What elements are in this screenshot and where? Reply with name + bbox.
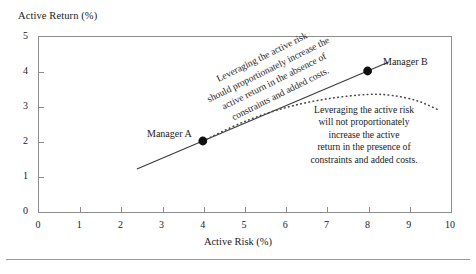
- data-point-label-manager-b: Manager B: [383, 56, 428, 67]
- concave-annotation-line-4: return in the presence of: [288, 141, 440, 153]
- chart-figure: Active Return (%) 012345 012345678910 Le…: [0, 0, 476, 274]
- concave-annotation-line-5: constraints and added costs.: [288, 154, 440, 166]
- data-point-marker: [363, 67, 372, 76]
- concave-annotation-line-2: will not proportionately: [288, 116, 440, 128]
- concave-annotation: Leveraging the active risk will not prop…: [288, 104, 440, 166]
- x-axis-title: Active Risk (%): [0, 236, 476, 247]
- concave-annotation-line-1: Leveraging the active risk: [288, 104, 440, 116]
- data-point-label-manager-a: Manager A: [147, 128, 192, 139]
- concave-annotation-line-3: increase the active: [288, 129, 440, 141]
- footer-divider: [6, 259, 470, 260]
